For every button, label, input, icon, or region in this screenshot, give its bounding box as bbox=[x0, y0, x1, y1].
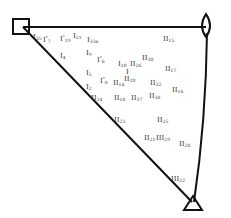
point-label: II21 bbox=[144, 135, 155, 143]
point-label: II37 bbox=[131, 95, 142, 103]
point-label: I*7 bbox=[43, 34, 51, 45]
point-label: II25 bbox=[157, 117, 168, 125]
point-label: II26 bbox=[130, 61, 141, 69]
point-label: II38 bbox=[149, 93, 160, 101]
ternary-diagram: I35I*7I*19I21I33aI4I9I*6I10II26II30II15I… bbox=[0, 0, 231, 218]
point-label: II15 bbox=[163, 36, 174, 44]
point-label: II30 bbox=[142, 55, 153, 63]
point-label: II14 bbox=[113, 80, 124, 88]
point-label: II18 bbox=[114, 95, 125, 103]
point-label: II24 bbox=[91, 95, 102, 103]
point-label: I5 bbox=[86, 70, 92, 78]
point-label: III22 bbox=[171, 176, 185, 184]
point-label: II28 bbox=[179, 141, 190, 149]
point-label: II23 bbox=[114, 117, 125, 125]
point-label: II16 bbox=[172, 87, 183, 95]
point-label: I*19 bbox=[60, 33, 71, 44]
point-label: II20 bbox=[124, 76, 135, 84]
point-label: III29 bbox=[156, 135, 170, 143]
point-label: I2 bbox=[86, 84, 92, 92]
point-label: II32 bbox=[150, 80, 161, 88]
point-label: II17 bbox=[165, 66, 176, 74]
point-label: I9 bbox=[86, 50, 92, 58]
point-label: I35 bbox=[33, 34, 42, 42]
point-label: I*8 bbox=[100, 75, 108, 86]
point-label: I*6 bbox=[97, 54, 105, 65]
point-label: I33a bbox=[87, 37, 98, 45]
point-label: I4 bbox=[60, 53, 66, 61]
point-label: I21 bbox=[73, 33, 82, 41]
triangle-vertex-icon bbox=[184, 196, 202, 210]
